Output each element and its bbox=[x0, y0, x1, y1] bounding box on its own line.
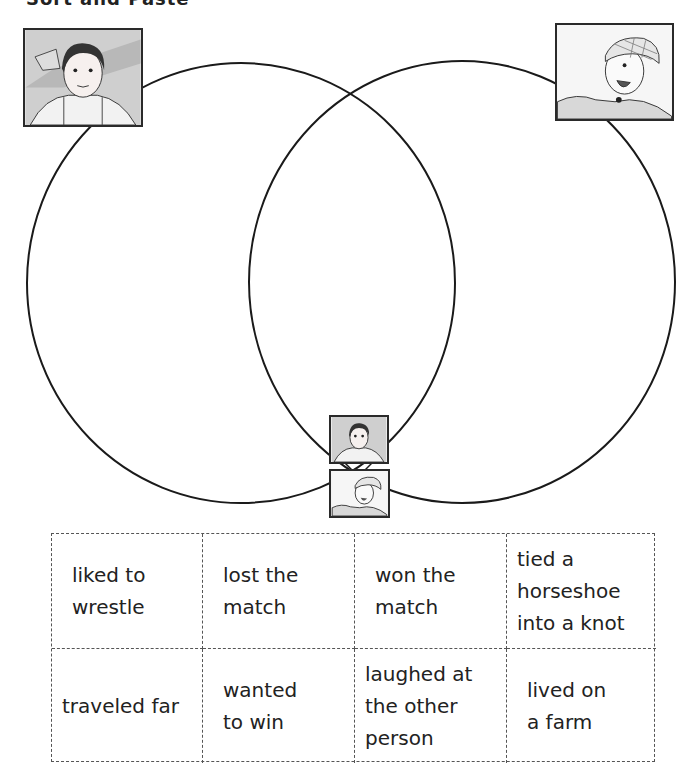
right-circle bbox=[249, 61, 675, 503]
card-lived-on-a-farm[interactable]: lived on a farm bbox=[507, 649, 656, 763]
card-traveled-far[interactable]: traveled far bbox=[52, 649, 203, 763]
card-liked-to-wrestle[interactable]: liked to wrestle bbox=[52, 534, 203, 649]
cut-out-cards-grid: liked to wrestle lost the match won the … bbox=[51, 533, 655, 762]
card-laughed-at-other-person[interactable]: laughed at the other person bbox=[355, 649, 507, 763]
card-won-the-match[interactable]: won the match bbox=[355, 534, 507, 649]
boy-portrait-small-icon bbox=[329, 469, 390, 518]
left-circle bbox=[27, 63, 455, 503]
girl-portrait-small-icon bbox=[329, 415, 389, 464]
girl-portrait-icon bbox=[23, 28, 143, 127]
card-tied-a-horseshoe[interactable]: tied a horseshoe into a knot bbox=[507, 534, 656, 649]
card-wanted-to-win[interactable]: wanted to win bbox=[203, 649, 355, 763]
card-lost-the-match[interactable]: lost the match bbox=[203, 534, 355, 649]
boy-portrait-icon bbox=[555, 23, 674, 121]
